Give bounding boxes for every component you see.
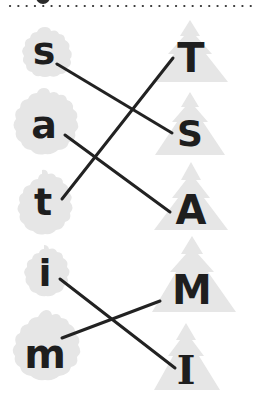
letter-lower-a[interactable]: a — [31, 106, 57, 144]
letter-upper-T[interactable]: T — [177, 38, 204, 78]
letter-upper-I[interactable]: I — [177, 350, 196, 390]
worksheet: s a t i m T S A M I — [0, 0, 253, 402]
match-line-t-T[interactable] — [62, 58, 173, 199]
letter-lower-t[interactable]: t — [34, 183, 52, 221]
match-line-m-M[interactable] — [62, 301, 160, 338]
matching-lines — [57, 58, 175, 368]
letter-upper-M[interactable]: M — [172, 270, 212, 310]
letter-lower-m[interactable]: m — [24, 334, 66, 374]
letter-lower-i[interactable]: i — [38, 254, 51, 292]
letter-lower-s[interactable]: s — [33, 32, 56, 70]
letter-upper-S[interactable]: S — [177, 116, 203, 152]
letter-upper-A[interactable]: A — [176, 190, 207, 230]
